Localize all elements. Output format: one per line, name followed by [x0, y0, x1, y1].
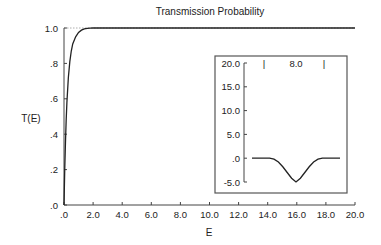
transmission-chart: Transmission Probability T(E) E .02.04.0…	[0, 0, 381, 245]
x-tick-label: 2.0	[86, 209, 99, 220]
x-tick-label: .0	[60, 209, 68, 220]
inset-width-marker-left: |	[263, 58, 265, 69]
y-tick-label: .0	[50, 200, 58, 211]
inset-y-tick-label: -5.0	[224, 177, 240, 188]
inset-chart: -5.0.05.010.015.020.0 8.0 | |	[215, 56, 347, 193]
x-tick-label: 6.0	[145, 209, 158, 220]
inset-frame	[215, 56, 347, 193]
x-tick-label: 18.0	[317, 209, 336, 220]
y-tick-label: .8	[50, 58, 58, 69]
x-tick-label: 4.0	[116, 209, 129, 220]
x-tick-label: 8.0	[174, 209, 187, 220]
inset-y-tick-label: 5.0	[227, 129, 240, 140]
x-tick-label: 10.0	[200, 209, 219, 220]
y-tick-label: 1.0	[45, 23, 58, 34]
x-tick-label: 16.0	[288, 209, 307, 220]
x-tick-label: 14.0	[258, 209, 277, 220]
y-tick-label: .2	[50, 164, 58, 175]
inset-y-tick-label: .0	[232, 153, 240, 164]
x-axis-label: E	[206, 227, 213, 238]
x-tick-label: 12.0	[229, 209, 248, 220]
y-axis-label: T(E)	[21, 113, 40, 124]
chart-title: Transmission Probability	[156, 6, 265, 17]
x-tick-label: 20.0	[346, 209, 365, 220]
y-tick-label: .4	[50, 129, 58, 140]
y-tick-label: .6	[50, 93, 58, 104]
inset-y-tick-label: 10.0	[222, 105, 241, 116]
inset-annotation: 8.0	[289, 58, 302, 69]
inset-y-tick-label: 20.0	[222, 58, 241, 69]
inset-width-marker-right: |	[323, 58, 325, 69]
inset-y-tick-label: 15.0	[222, 81, 241, 92]
